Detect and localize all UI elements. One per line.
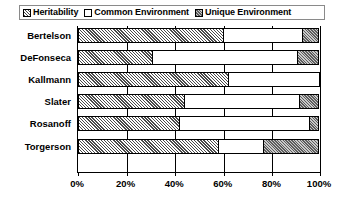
x-tick-80	[272, 172, 273, 176]
category-label-kallmann: Kallmann	[28, 74, 71, 85]
bar-segment-unique-environment	[309, 116, 319, 131]
bar-row-slater	[78, 94, 321, 109]
bar-segment-common-environment	[179, 116, 310, 131]
category-label-slater: Slater	[45, 96, 71, 107]
category-label-torgerson: Torgerson	[25, 141, 71, 152]
legend-label-unique-environment: Unique Environment	[205, 8, 291, 17]
bar-row-torgerson	[78, 139, 321, 154]
legend-label-common-environment: Common Environment	[94, 8, 189, 17]
bar-segment-common-environment	[218, 139, 264, 154]
category-label-defonseca: DeFonseca	[20, 52, 71, 63]
x-label-60: 60%	[213, 178, 232, 189]
bar-segment-unique-environment	[299, 94, 318, 109]
bar-segment-heritability	[78, 28, 224, 43]
legend-entry-unique-environment: Unique Environment	[195, 8, 291, 17]
category-axis-labels: Bertelson DeFonseca Kallmann Slater Rosa…	[0, 26, 74, 172]
plot-area: Bertelson DeFonseca Kallmann Slater Rosa…	[0, 26, 348, 199]
x-tick-60	[224, 172, 225, 176]
category-label-bertelson: Bertelson	[27, 30, 71, 41]
bar-row-bertelson	[78, 28, 321, 43]
bar-segment-unique-environment	[297, 50, 319, 65]
x-label-100: 100%	[307, 178, 331, 189]
bar-segment-heritability	[78, 50, 153, 65]
bar-segment-common-environment	[228, 72, 320, 87]
x-tick-100	[320, 172, 321, 176]
x-label-80: 80%	[262, 178, 281, 189]
x-tick-20	[127, 172, 128, 176]
x-label-20: 20%	[116, 178, 135, 189]
dark-stipple-swatch-icon	[195, 9, 203, 17]
x-label-0: 0%	[70, 178, 84, 189]
category-label-rosanoff: Rosanoff	[30, 118, 71, 129]
legend-entry-heritability: Heritability	[23, 8, 78, 17]
bar-row-defonseca	[78, 50, 321, 65]
bar-row-rosanoff	[78, 116, 321, 131]
x-label-40: 40%	[165, 178, 184, 189]
bar-segment-heritability	[78, 72, 229, 87]
bar-segment-common-environment	[152, 50, 298, 65]
bar-segment-common-environment	[223, 28, 303, 43]
hatched-diagonal-swatch-icon	[23, 9, 31, 17]
legend-label-heritability: Heritability	[33, 8, 78, 17]
value-axis-labels: 0% 20% 40% 60% 80% 100%	[0, 178, 348, 192]
axis-area	[77, 26, 321, 173]
legend-entry-common-environment: Common Environment	[84, 8, 189, 17]
stacked-bar-chart: Heritability Common Environment Unique E…	[0, 0, 348, 199]
x-tick-40	[175, 172, 176, 176]
chart-legend: Heritability Common Environment Unique E…	[19, 5, 325, 20]
bar-segment-heritability	[78, 94, 185, 109]
bar-segment-common-environment	[184, 94, 301, 109]
x-tick-0	[78, 172, 79, 176]
bar-segment-unique-environment	[263, 139, 319, 154]
bar-segment-heritability	[78, 116, 180, 131]
white-swatch-icon	[84, 9, 92, 17]
bar-row-kallmann	[78, 72, 321, 87]
bar-segment-unique-environment	[302, 28, 319, 43]
bar-segment-heritability	[78, 139, 219, 154]
